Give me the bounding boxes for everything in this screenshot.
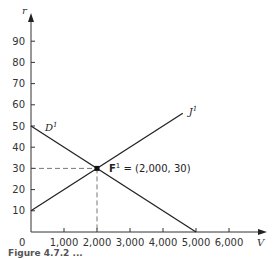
x-tick-label: 5,000 [182, 237, 211, 248]
y-tick-label: 20 [12, 184, 25, 195]
x-axis-label: V [257, 237, 266, 248]
x-tick-label: 0 [19, 237, 25, 248]
ticks: 10203040506070809001,0002,0003,0004,0005… [12, 36, 243, 248]
figure-caption: Figure 4.7.2 ... [8, 248, 83, 258]
x-tick-label: 3,000 [116, 237, 145, 248]
x-tick-label: 6,000 [215, 237, 244, 248]
y-tick-label: 30 [12, 163, 25, 174]
series-label-j: J1 [187, 105, 197, 117]
chart: 10203040506070809001,0002,0003,0004,0005… [0, 0, 278, 259]
y-axis-arrow-icon [28, 13, 34, 22]
axes [28, 13, 267, 235]
series-label-sup: 1 [53, 121, 57, 129]
series-label-d: D1 [44, 121, 58, 133]
series-line-d [31, 126, 196, 232]
equilibrium-point-label: F1 = (2,000, 30) [109, 162, 191, 174]
point-coords: = (2,000, 30) [120, 163, 190, 174]
guide-lines [31, 168, 97, 232]
y-tick-label: 40 [12, 142, 25, 153]
x-tick-label: 4,000 [149, 237, 178, 248]
y-tick-label: 90 [12, 36, 25, 47]
point-name: F [109, 163, 116, 174]
y-tick-label: 70 [12, 78, 25, 89]
x-axis-arrow-icon [258, 229, 267, 235]
y-tick-label: 80 [12, 57, 25, 68]
y-tick-label: 60 [12, 99, 25, 110]
equilibrium-point-marker [95, 166, 100, 171]
y-tick-label: 10 [12, 205, 25, 216]
x-tick-label: 1,000 [50, 237, 79, 248]
series-label-sup: 1 [193, 105, 197, 113]
y-tick-label: 50 [12, 121, 25, 132]
x-tick-label: 2,000 [83, 237, 112, 248]
labels: rVD1J1F1 = (2,000, 30) [22, 5, 266, 248]
y-axis-label: r [22, 5, 28, 16]
